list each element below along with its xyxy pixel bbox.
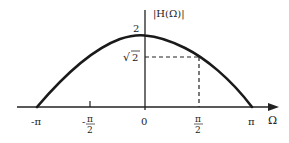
y-tick-sqrt2: 2 bbox=[132, 52, 138, 63]
x-tick-half-pi-den: 2 bbox=[195, 125, 201, 135]
x-tick-zero: 0 bbox=[141, 116, 147, 127]
x-tick-neg-half-pi-sign: - bbox=[82, 116, 85, 127]
x-axis-label: Ω bbox=[268, 114, 277, 127]
y-tick-2: 2 bbox=[133, 23, 139, 34]
y-axis-label: |H(Ω)| bbox=[153, 8, 185, 20]
x-tick-neg-pi: -π bbox=[31, 116, 41, 127]
x-axis-arrow-icon bbox=[268, 103, 279, 111]
x-tick-neg-half-pi-num: π bbox=[87, 114, 93, 124]
y-tick-sqrt2-radical: √ bbox=[123, 51, 131, 64]
x-tick-pi: π bbox=[248, 116, 255, 127]
x-tick-neg-half-pi-den: 2 bbox=[87, 125, 93, 135]
chart-canvas: |H(Ω)| 2 √ 2 -π - π 2 0 π 2 π Ω bbox=[0, 0, 289, 143]
x-tick-half-pi-num: π bbox=[195, 114, 201, 124]
